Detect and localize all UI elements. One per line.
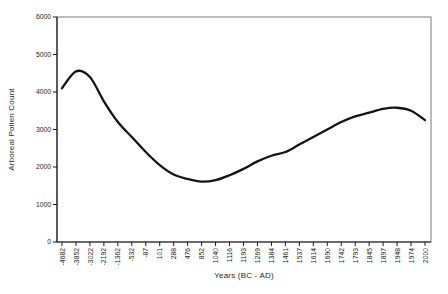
x-tick-label: 476 bbox=[184, 248, 191, 260]
x-tick-label: -3022 bbox=[87, 248, 94, 266]
x-tick-label: -2192 bbox=[100, 248, 107, 266]
x-tick-label: 1845 bbox=[366, 248, 373, 263]
x-tick-label: -87 bbox=[142, 248, 149, 258]
y-tick-label: 5000 bbox=[36, 51, 51, 58]
plot-area-border bbox=[57, 17, 431, 242]
x-tick-label: 1897 bbox=[380, 248, 387, 263]
y-tick-label: 0 bbox=[47, 238, 51, 245]
y-axis-title: Arboreal Pollen Count bbox=[7, 30, 16, 230]
x-tick-label: 1537 bbox=[296, 248, 303, 263]
y-tick-label: 6000 bbox=[36, 13, 51, 20]
x-tick-label: 1193 bbox=[240, 248, 247, 263]
y-tick-label: 4000 bbox=[36, 88, 51, 95]
y-tick-label: 1000 bbox=[36, 201, 51, 208]
pollen-count-series-line bbox=[62, 71, 425, 182]
x-tick-label: 1040 bbox=[212, 248, 219, 263]
x-tick-label: 1690 bbox=[324, 248, 331, 263]
x-tick-label: 1974 bbox=[408, 248, 415, 263]
x-axis-title: Years (BC - AD) bbox=[57, 271, 431, 280]
x-tick-label: -3852 bbox=[73, 248, 80, 266]
x-tick-label: 1614 bbox=[310, 248, 317, 263]
x-tick-label: 101 bbox=[156, 248, 163, 260]
x-tick-label: -4682 bbox=[59, 248, 66, 266]
x-tick-label: 1384 bbox=[268, 248, 275, 263]
x-tick-label: -532 bbox=[128, 248, 135, 262]
x-tick-label: 1948 bbox=[394, 248, 401, 263]
y-tick-label: 2000 bbox=[36, 163, 51, 170]
pollen-count-chart: 0100020003000400050006000-4682-3852-3022… bbox=[0, 0, 448, 294]
x-tick-label: 1742 bbox=[338, 248, 345, 263]
x-tick-label: 1269 bbox=[254, 248, 261, 263]
x-tick-label: 1116 bbox=[226, 248, 233, 262]
x-tick-label: -1362 bbox=[114, 248, 121, 266]
y-tick-label: 3000 bbox=[36, 126, 51, 133]
x-tick-label: 852 bbox=[198, 248, 205, 260]
x-tick-label: 288 bbox=[170, 248, 177, 260]
chart-canvas: 0100020003000400050006000-4682-3852-3022… bbox=[0, 0, 448, 294]
x-tick-label: 1793 bbox=[352, 248, 359, 263]
x-tick-label: 1461 bbox=[282, 248, 289, 263]
x-tick-label: 2000 bbox=[422, 248, 429, 263]
